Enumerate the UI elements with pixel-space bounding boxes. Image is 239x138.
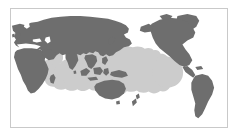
figure-root: World distribution map Land Distribution…: [0, 0, 239, 138]
land-sri-lanka: [73, 70, 76, 73]
map-frame: [10, 8, 228, 128]
world-map: [11, 9, 227, 127]
